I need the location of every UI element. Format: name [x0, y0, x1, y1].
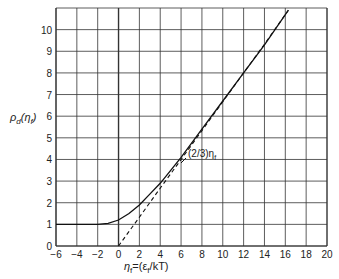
svg-text:10: 10	[41, 25, 53, 36]
svg-text:5: 5	[46, 133, 52, 144]
svg-text:6: 6	[178, 249, 184, 260]
svg-text:4: 4	[157, 249, 163, 260]
svg-text:2: 2	[46, 198, 52, 209]
svg-text:−6: −6	[50, 249, 62, 260]
svg-text:20: 20	[321, 249, 333, 260]
svg-text:18: 18	[301, 249, 313, 260]
svg-text:12: 12	[238, 249, 250, 260]
svg-text:16: 16	[280, 249, 292, 260]
svg-text:−2: −2	[92, 249, 104, 260]
svg-text:0: 0	[46, 241, 52, 252]
svg-text:9: 9	[46, 46, 52, 57]
svg-text:3: 3	[46, 176, 52, 187]
svg-text:8: 8	[199, 249, 205, 260]
svg-text:10: 10	[217, 249, 229, 260]
chart: −6−4−202468101214161820012345678910 (2/3…	[0, 0, 339, 279]
svg-text:1: 1	[46, 219, 52, 230]
svg-text:2: 2	[137, 249, 143, 260]
svg-text:7: 7	[46, 90, 52, 101]
svg-text:8: 8	[46, 68, 52, 79]
svg-text:14: 14	[259, 249, 271, 260]
curve-rho-d	[56, 10, 288, 224]
svg-text:4: 4	[46, 154, 52, 165]
grid	[56, 8, 327, 246]
x-axis-label: ηf=(εf/kT)	[124, 260, 169, 275]
svg-text:6: 6	[46, 111, 52, 122]
svg-text:0: 0	[116, 249, 122, 260]
svg-text:−4: −4	[71, 249, 83, 260]
y-axis-label: ρd(ηf)	[9, 111, 37, 126]
